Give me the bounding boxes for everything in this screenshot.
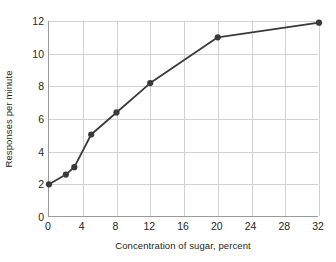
y-axis-tick-label: 10 <box>4 48 44 59</box>
x-axis-tick-label: 20 <box>202 221 232 232</box>
x-axis-tick-labels: 048121620242832 <box>48 221 318 237</box>
data-series-line <box>49 21 319 217</box>
y-axis-tick-label: 4 <box>4 146 44 157</box>
data-point <box>71 164 77 170</box>
y-axis-tick-label: 6 <box>4 114 44 125</box>
x-axis-tick-label: 32 <box>303 221 333 232</box>
data-point <box>88 131 94 137</box>
x-axis-title: Concentration of sugar, percent <box>48 240 318 251</box>
data-point <box>113 109 119 115</box>
data-point <box>215 34 221 40</box>
y-axis-tick-labels: 024681012 <box>0 21 44 217</box>
plot-area <box>48 21 318 217</box>
x-axis-tick-label: 4 <box>67 221 97 232</box>
y-axis-tick-label: 12 <box>4 16 44 27</box>
data-point <box>46 181 52 187</box>
chart-screenshot: Responses per minute 024681012 048121620… <box>0 0 336 262</box>
series-polyline <box>49 23 319 185</box>
x-axis-tick-label: 8 <box>101 221 131 232</box>
data-point <box>316 20 322 26</box>
series-markers <box>46 20 322 188</box>
data-point <box>63 171 69 177</box>
y-axis-tick-label: 2 <box>4 179 44 190</box>
y-axis-tick-label: 8 <box>4 81 44 92</box>
x-axis-tick-label: 0 <box>33 221 63 232</box>
x-axis-tick-label: 24 <box>236 221 266 232</box>
x-axis-tick-label: 12 <box>134 221 164 232</box>
x-axis-tick-label: 28 <box>269 221 299 232</box>
x-axis-tick-label: 16 <box>168 221 198 232</box>
data-point <box>147 80 153 86</box>
gridline-vertical <box>319 21 320 216</box>
